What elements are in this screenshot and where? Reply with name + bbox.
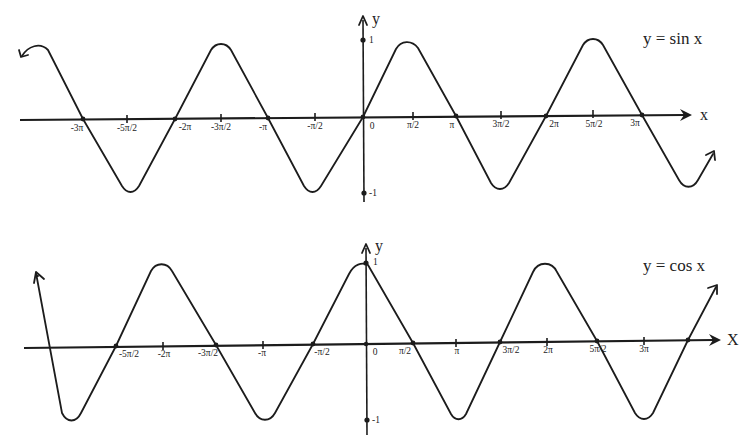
sine-y-axis-label: y — [372, 10, 380, 28]
cosine-y-axis — [366, 248, 367, 435]
sine-y-one-label: 1 — [369, 35, 374, 45]
svg-text:-3π/2: -3π/2 — [211, 122, 231, 132]
svg-text:3π: 3π — [630, 118, 640, 128]
cosine-x-axis — [24, 340, 713, 348]
svg-text:-2π: -2π — [179, 122, 192, 132]
cosine-graph: X y 1 -1 0 -5π/2 -2π — [24, 237, 739, 435]
svg-text:π: π — [455, 346, 460, 356]
svg-text:-5π/2: -5π/2 — [117, 123, 137, 133]
cosine-y-axis-label: y — [375, 237, 383, 255]
cosine-graph-title: y = cos x — [643, 256, 705, 275]
cosine-y-one-label: 1 — [373, 257, 378, 267]
trig-graphs-figure: x y 1 -1 0 -3π -5π/2 — [0, 0, 749, 448]
sine-y-neg-one-dot — [361, 190, 366, 195]
cosine-left-arrow-icon — [34, 272, 44, 283]
sine-graph: x y 1 -1 0 -3π -5π/2 — [19, 10, 715, 202]
svg-text:2π: 2π — [543, 345, 553, 355]
svg-text:5π/2: 5π/2 — [586, 119, 603, 129]
svg-text:3π/2: 3π/2 — [503, 345, 520, 355]
cosine-y-neg-one-dot — [364, 417, 369, 422]
svg-text:-5π/2: -5π/2 — [119, 349, 139, 359]
sine-origin-label: 0 — [370, 121, 375, 131]
svg-text:-π/2: -π/2 — [307, 121, 323, 131]
sine-x-axis — [20, 115, 684, 120]
cosine-y-neg-one-label: -1 — [372, 415, 380, 425]
cosine-origin-label: 0 — [373, 347, 378, 357]
sine-x-axis-label: x — [700, 106, 708, 123]
svg-text:-π: -π — [258, 348, 266, 358]
sine-y-one-dot — [360, 37, 365, 42]
sine-y-neg-one-label: -1 — [369, 188, 377, 198]
svg-text:-2π: -2π — [158, 349, 171, 359]
svg-text:-π/2: -π/2 — [314, 347, 330, 357]
svg-text:3π/2: 3π/2 — [493, 119, 510, 129]
svg-text:π/2: π/2 — [407, 120, 419, 130]
svg-text:-3π/2: -3π/2 — [198, 348, 218, 358]
svg-text:3π: 3π — [639, 344, 649, 354]
svg-text:π/2: π/2 — [399, 346, 411, 356]
sine-graph-title: y = sin x — [643, 29, 703, 48]
cosine-origin-dot — [364, 342, 368, 346]
svg-text:5π/2: 5π/2 — [590, 344, 607, 354]
sine-y-axis — [363, 20, 364, 202]
cosine-x-axis-label: X — [727, 331, 739, 348]
svg-text:π: π — [450, 120, 455, 130]
svg-text:2π: 2π — [549, 119, 559, 129]
svg-text:-π: -π — [259, 122, 267, 132]
svg-text:-3π: -3π — [71, 123, 84, 133]
